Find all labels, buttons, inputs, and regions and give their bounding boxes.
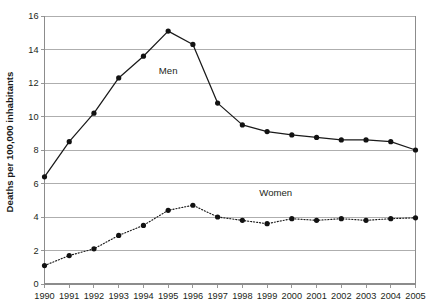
data-point-men-1999 — [265, 129, 270, 134]
y-tick-label-12: 12 — [28, 78, 38, 88]
data-point-women-1995 — [166, 208, 171, 213]
line-chart: 0246810121416199019911992199319941995199… — [0, 0, 433, 307]
x-tick-label-2003: 2003 — [356, 291, 376, 301]
x-tick-label-2001: 2001 — [306, 291, 326, 301]
data-point-women-2001 — [314, 218, 319, 223]
data-point-women-1991 — [67, 253, 72, 258]
x-tick-label-1996: 1996 — [183, 291, 203, 301]
x-tick-label-2000: 2000 — [282, 291, 302, 301]
data-point-men-1992 — [91, 111, 96, 116]
series-annotation-women: Women — [259, 187, 292, 198]
series-group — [42, 28, 418, 268]
x-tick-label-1994: 1994 — [133, 291, 153, 301]
x-tick-label-1992: 1992 — [84, 291, 104, 301]
annotations-group: MenWomen — [159, 65, 292, 198]
y-tick-label-4: 4 — [33, 212, 38, 222]
data-point-women-2003 — [363, 218, 368, 223]
series-line-women — [45, 205, 416, 265]
data-point-men-1996 — [190, 42, 195, 47]
data-point-men-1994 — [141, 54, 146, 59]
y-tick-label-6: 6 — [33, 179, 38, 189]
data-point-men-2002 — [339, 137, 344, 142]
chart-canvas: 0246810121416199019911992199319941995199… — [0, 0, 433, 307]
x-tick-label-1993: 1993 — [108, 291, 128, 301]
data-point-men-2005 — [413, 147, 418, 152]
x-tick-label-2005: 2005 — [405, 291, 425, 301]
data-point-women-2004 — [388, 216, 393, 221]
data-point-men-1993 — [116, 75, 121, 80]
data-point-men-2004 — [388, 139, 393, 144]
y-tick-label-2: 2 — [33, 246, 38, 256]
data-point-men-1990 — [42, 174, 47, 179]
x-tick-label-2004: 2004 — [381, 291, 401, 301]
series-line-men — [45, 31, 416, 177]
y-axis-title: Deaths per 100,000 inhabitants — [4, 72, 15, 213]
x-tick-label-2002: 2002 — [331, 291, 351, 301]
data-point-women-2002 — [339, 216, 344, 221]
data-point-women-2000 — [289, 216, 294, 221]
y-tick-label-14: 14 — [28, 45, 38, 55]
data-point-women-2005 — [413, 215, 418, 220]
gridlines-group — [45, 16, 416, 251]
data-point-women-1997 — [215, 214, 220, 219]
data-point-women-1996 — [190, 203, 195, 208]
data-point-men-1998 — [240, 122, 245, 127]
x-tick-label-1997: 1997 — [207, 291, 227, 301]
y-tick-label-0: 0 — [33, 279, 38, 289]
y-tick-label-16: 16 — [28, 11, 38, 21]
y-tick-label-10: 10 — [28, 112, 38, 122]
x-tick-label-1995: 1995 — [158, 291, 178, 301]
data-point-men-2001 — [314, 135, 319, 140]
tick-labels-group: 0246810121416199019911992199319941995199… — [4, 11, 426, 300]
data-point-men-1997 — [215, 101, 220, 106]
axes-group — [41, 16, 416, 289]
data-point-men-1991 — [67, 139, 72, 144]
x-tick-label-1998: 1998 — [232, 291, 252, 301]
data-point-women-1999 — [265, 221, 270, 226]
data-point-women-1992 — [91, 246, 96, 251]
series-annotation-men: Men — [159, 65, 178, 76]
data-point-women-1993 — [116, 233, 121, 238]
x-tick-label-1990: 1990 — [34, 291, 54, 301]
x-tick-label-1991: 1991 — [59, 291, 79, 301]
data-point-women-1998 — [240, 218, 245, 223]
data-point-women-1990 — [42, 263, 47, 268]
data-point-men-2000 — [289, 132, 294, 137]
x-tick-label-1999: 1999 — [257, 291, 277, 301]
data-point-men-2003 — [363, 137, 368, 142]
data-point-women-1994 — [141, 223, 146, 228]
data-point-men-1995 — [166, 28, 171, 33]
y-tick-label-8: 8 — [33, 145, 38, 155]
